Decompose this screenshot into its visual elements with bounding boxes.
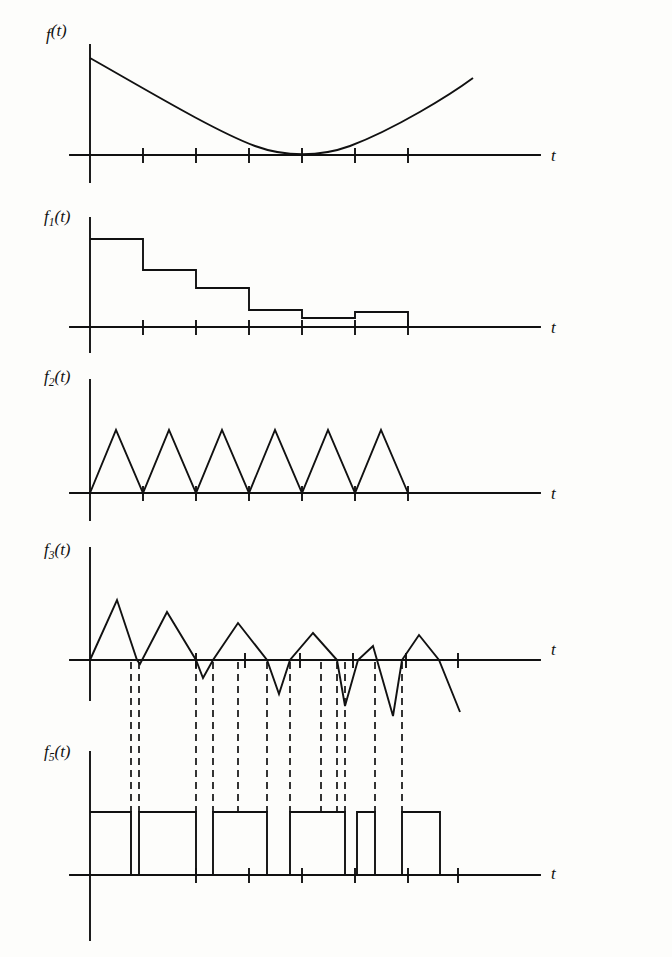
dashed-projection-lines [131, 662, 402, 812]
panel-f2-triangular-wave [90, 430, 408, 493]
panel-f5-label: f5(t) [44, 742, 71, 763]
panel-f5-pulse-train [90, 812, 440, 875]
panel-f1-staircase [90, 239, 408, 327]
panel-f3-t-label: t [551, 640, 557, 659]
panel-f2-t-label: t [551, 484, 557, 503]
panel-f3: f3(t) t [44, 540, 557, 716]
panel-f1-t-label: t [551, 318, 557, 337]
panel-f2: f2(t) t [44, 367, 557, 520]
panel-f3-bipolar-wave [90, 600, 460, 716]
waveform-figure: f(t) t f1(t) t f2( [0, 0, 672, 957]
panel-f1: f1(t) t [44, 207, 557, 352]
panel-f5-t-label: t [551, 864, 557, 883]
panel-f-label: f(t) [46, 21, 67, 44]
panel-f-t-label: t [551, 146, 557, 165]
panel-f5: f5(t) t [44, 742, 557, 940]
panel-f2-label: f2(t) [44, 367, 71, 388]
panel-f-curve [90, 58, 473, 154]
panel-f3-label: f3(t) [44, 540, 71, 561]
panel-f: f(t) t [46, 21, 557, 182]
panel-f1-label: f1(t) [44, 207, 71, 228]
figure-canvas: f(t) t f1(t) t f2( [0, 0, 672, 957]
